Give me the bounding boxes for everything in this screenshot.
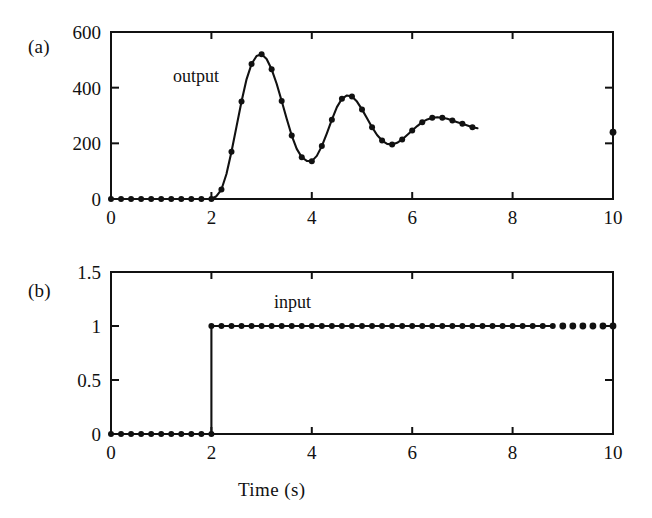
x-tick-label: 0 xyxy=(106,207,116,228)
data-point xyxy=(198,196,204,202)
data-point xyxy=(349,94,355,100)
data-point xyxy=(349,323,355,329)
data-point xyxy=(579,323,586,330)
data-point xyxy=(559,323,566,330)
data-point xyxy=(239,99,245,105)
panel-b-series-label: input xyxy=(274,292,311,313)
data-point xyxy=(439,115,445,121)
data-point xyxy=(148,196,154,202)
y-tick-label: 400 xyxy=(73,78,102,99)
data-point xyxy=(500,323,506,329)
x-tick-label: 6 xyxy=(407,442,417,463)
data-point xyxy=(269,66,275,72)
data-point xyxy=(168,196,174,202)
data-point xyxy=(299,323,305,329)
data-point xyxy=(610,129,617,136)
data-point xyxy=(429,115,435,121)
data-point xyxy=(208,323,214,329)
data-point xyxy=(469,323,475,329)
data-point xyxy=(540,323,546,329)
data-point xyxy=(178,196,184,202)
x-tick-label: 6 xyxy=(407,207,417,228)
x-tick-label: 10 xyxy=(604,207,623,228)
data-point xyxy=(168,431,174,437)
data-point xyxy=(158,431,164,437)
x-tick-label: 2 xyxy=(207,207,217,228)
data-point xyxy=(409,323,415,329)
data-point xyxy=(339,323,345,329)
figure-canvas: 0246810 0200400600 0246810 00.511.5 xyxy=(0,0,652,518)
data-point xyxy=(569,323,576,330)
data-point xyxy=(439,323,445,329)
data-point xyxy=(550,323,556,329)
data-point xyxy=(249,61,255,67)
y-tick-label: 0 xyxy=(92,189,102,210)
panel-a-tag: (a) xyxy=(28,36,50,58)
data-point xyxy=(369,124,375,130)
data-point xyxy=(319,323,325,329)
y-tick-label: 200 xyxy=(73,133,102,154)
x-tick-label: 4 xyxy=(307,207,317,228)
y-tick-label: 600 xyxy=(73,22,102,43)
data-point xyxy=(208,431,214,437)
data-point xyxy=(319,143,325,149)
data-point xyxy=(228,323,234,329)
x-tick-label: 10 xyxy=(604,442,623,463)
x-tick-label: 4 xyxy=(307,442,317,463)
data-point xyxy=(259,51,265,57)
data-point xyxy=(449,118,455,124)
data-point xyxy=(329,323,335,329)
data-point xyxy=(128,196,134,202)
data-point xyxy=(198,431,204,437)
data-point xyxy=(469,124,475,130)
data-point xyxy=(409,128,415,134)
data-point xyxy=(208,196,214,202)
data-point xyxy=(218,187,224,193)
data-point xyxy=(459,121,465,127)
data-point xyxy=(138,431,144,437)
data-point xyxy=(329,117,335,123)
data-point xyxy=(279,98,285,104)
data-point xyxy=(600,323,607,330)
x-tick-label: 2 xyxy=(207,442,217,463)
data-point xyxy=(118,431,124,437)
panel-b-tag: (b) xyxy=(28,280,51,302)
data-point xyxy=(590,323,597,330)
data-point xyxy=(289,133,295,139)
data-point xyxy=(389,323,395,329)
data-point xyxy=(429,323,435,329)
data-point xyxy=(108,431,114,437)
data-point xyxy=(138,196,144,202)
data-point xyxy=(158,196,164,202)
data-point xyxy=(490,323,496,329)
data-point xyxy=(269,323,275,329)
x-tick-label: 8 xyxy=(508,207,518,228)
data-point xyxy=(520,323,526,329)
data-point xyxy=(369,323,375,329)
data-point xyxy=(108,196,114,202)
x-tick-label: 0 xyxy=(106,442,116,463)
data-point xyxy=(188,196,194,202)
data-point xyxy=(309,158,315,164)
data-point xyxy=(419,323,425,329)
data-point xyxy=(118,196,124,202)
data-point xyxy=(239,323,245,329)
data-point xyxy=(339,96,345,102)
data-point xyxy=(228,149,234,155)
data-point xyxy=(359,106,365,112)
y-tick-label: 0 xyxy=(92,424,102,445)
data-point xyxy=(299,154,305,160)
data-point xyxy=(389,141,395,147)
data-point xyxy=(449,323,455,329)
data-point xyxy=(148,431,154,437)
data-point xyxy=(289,323,295,329)
data-point xyxy=(399,323,405,329)
data-point xyxy=(309,323,315,329)
data-point xyxy=(530,323,536,329)
data-point xyxy=(178,431,184,437)
data-point xyxy=(379,138,385,144)
data-point xyxy=(379,323,385,329)
y-tick-label: 1.5 xyxy=(77,262,101,283)
data-point xyxy=(128,431,134,437)
data-point xyxy=(459,323,465,329)
